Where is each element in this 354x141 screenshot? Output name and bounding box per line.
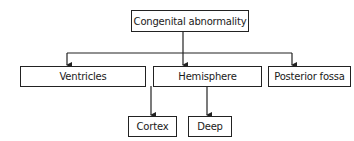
node-label: Posterior fossa xyxy=(274,71,345,82)
node-label: Deep xyxy=(197,121,223,132)
node-label: Congenital abnormality xyxy=(134,16,247,27)
node-label: Cortex xyxy=(137,121,169,132)
node-congenital-abnormality: Congenital abnormality xyxy=(131,10,249,32)
node-label: Hemisphere xyxy=(178,71,236,82)
node-cortex: Cortex xyxy=(128,116,177,137)
diagram-canvas: Congenital abnormality Ventricles Hemisp… xyxy=(0,0,354,141)
node-deep: Deep xyxy=(188,116,232,137)
node-hemisphere: Hemisphere xyxy=(153,66,262,87)
node-label: Ventricles xyxy=(59,71,106,82)
node-posterior-fossa: Posterior fossa xyxy=(268,66,351,87)
node-ventricles: Ventricles xyxy=(20,66,146,87)
